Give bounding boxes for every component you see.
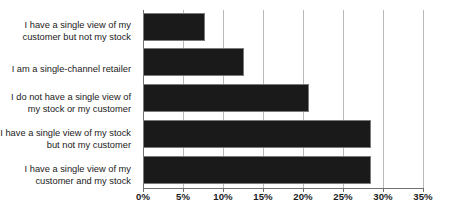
x-axis-label-4: 20% (283, 191, 323, 202)
x-axis-tick-labels: 0% 5% 10% 15% 20% 25% 30% 35% (0, 191, 449, 211)
x-axis-baseline (143, 188, 424, 189)
gridline-30 (383, 10, 384, 188)
x-axis-label-2: 10% (203, 191, 243, 202)
y-axis-label-2: I do not have a single view of my stock … (0, 91, 131, 115)
bar-0[interactable] (143, 13, 205, 41)
bar-4[interactable] (143, 156, 371, 184)
x-axis-label-0: 0% (123, 191, 163, 202)
x-axis-label-3: 15% (243, 191, 283, 202)
y-axis-label-4: I have a single view of my customer and … (0, 163, 131, 187)
x-axis-label-7: 35% (403, 191, 443, 202)
bar-1[interactable] (143, 48, 244, 76)
bar-chart: I have a single view of my customer but … (0, 0, 449, 220)
y-axis-label-3: I have a single view of my stock but not… (0, 127, 131, 151)
bar-3[interactable] (143, 120, 371, 148)
gridline-35 (423, 10, 424, 188)
bar-2[interactable] (143, 84, 309, 112)
y-axis-label-0: I have a single view of my customer but … (0, 19, 131, 43)
plot-area (143, 10, 423, 188)
x-axis-label-6: 30% (363, 191, 403, 202)
x-axis-label-5: 25% (323, 191, 363, 202)
y-axis-category-labels: I have a single view of my customer but … (0, 0, 137, 220)
y-axis-label-1: I am a single-channel retailer (0, 63, 131, 75)
x-axis-label-1: 5% (163, 191, 203, 202)
